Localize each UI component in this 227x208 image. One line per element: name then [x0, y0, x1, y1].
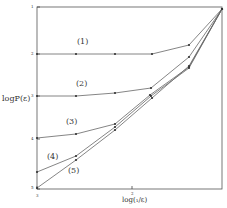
- y-tick-1: 1: [31, 4, 34, 9]
- plot-frame: [37, 7, 222, 189]
- y-tick-5: 5: [31, 185, 34, 190]
- data-point-marker: [221, 8, 223, 10]
- data-point-marker: [188, 56, 190, 58]
- plot-series: [36, 8, 223, 189]
- data-point-marker: [75, 95, 77, 97]
- data-point-marker: [188, 65, 190, 67]
- y-tick-4: 4: [31, 136, 34, 141]
- data-point-marker: [150, 87, 152, 89]
- data-point-marker: [151, 97, 153, 99]
- y-axis-label: logP(ε): [2, 94, 30, 103]
- data-point-marker: [114, 123, 116, 125]
- y-tick-3: 3: [31, 93, 34, 98]
- data-point-marker: [36, 53, 38, 55]
- data-point-marker: [114, 126, 116, 128]
- data-point-marker: [75, 155, 77, 157]
- curve-label-1: (1): [77, 37, 88, 46]
- data-point-marker: [36, 137, 38, 139]
- data-point-marker: [188, 44, 190, 46]
- data-point-marker: [114, 129, 116, 131]
- curve-label-5: (5): [68, 166, 79, 175]
- data-point-marker: [36, 95, 38, 97]
- series-4: [36, 8, 223, 173]
- x-tick-2: 2: [131, 191, 134, 196]
- data-point-marker: [114, 92, 116, 94]
- data-point-marker: [36, 171, 38, 173]
- curve-label-2: (2): [76, 79, 87, 88]
- data-point-marker: [150, 95, 152, 97]
- chart-plot: [0, 0, 227, 208]
- data-point-marker: [36, 187, 38, 189]
- curve-label-3: (3): [66, 117, 77, 126]
- data-point-marker: [114, 53, 116, 55]
- data-point-marker: [151, 53, 153, 55]
- series-2: [36, 8, 223, 97]
- data-point-marker: [75, 159, 77, 161]
- series-3: [36, 8, 223, 139]
- x-axis-label: log(₁/ε): [122, 196, 147, 204]
- series-5: [36, 8, 223, 189]
- data-point-marker: [75, 53, 77, 55]
- data-point-marker: [75, 133, 77, 135]
- data-point-marker: [188, 67, 190, 69]
- curve-label-4: (4): [47, 152, 58, 161]
- y-tick-2: 2: [31, 51, 34, 56]
- x-tick-3: 3: [36, 193, 39, 198]
